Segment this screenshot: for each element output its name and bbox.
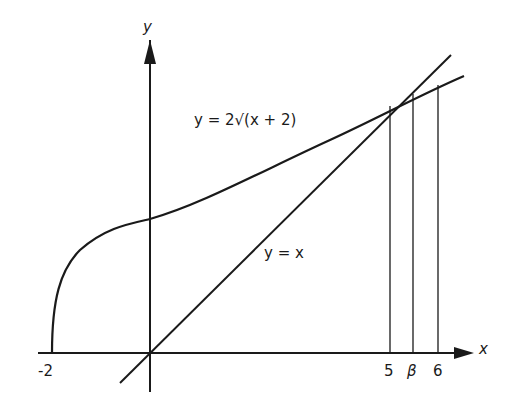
tick-label-5: 5 xyxy=(384,362,394,380)
diagram-canvas xyxy=(0,0,519,410)
y-axis-label: y xyxy=(143,18,152,36)
tick-label-beta: β xyxy=(407,362,417,380)
tick-label-neg2: -2 xyxy=(38,362,53,380)
curve-equation-label: y = 2√(x + 2) xyxy=(194,111,296,129)
tick-label-6: 6 xyxy=(433,362,443,380)
line-equation-label: y = x xyxy=(264,244,304,262)
x-axis-arrow-icon xyxy=(454,347,474,359)
identity-line xyxy=(120,55,451,383)
x-axis-label: x xyxy=(479,340,488,358)
y-axis-arrow-icon xyxy=(144,40,156,64)
